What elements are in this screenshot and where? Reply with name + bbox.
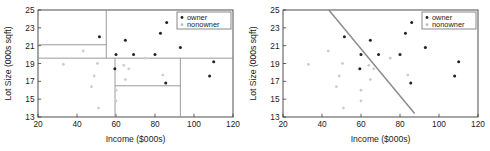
data-point-owner xyxy=(124,39,127,42)
x-axis-title: Income ($000s) xyxy=(351,134,411,144)
x-tick-label: 20 xyxy=(33,119,43,129)
y-tick-label: 19 xyxy=(25,59,35,69)
data-point-nonowner xyxy=(360,100,363,103)
data-point-nonowner xyxy=(335,85,338,88)
x-tick-label: 40 xyxy=(317,119,327,129)
data-point-nonowner xyxy=(341,62,344,65)
data-point-nonowner xyxy=(338,75,341,78)
data-point-owner xyxy=(159,32,162,35)
legend-marker-nonowner xyxy=(181,23,184,26)
chart-panel-right: 2040608010012013151719212325Income ($000… xyxy=(245,0,490,151)
data-point-owner xyxy=(360,53,363,56)
data-point-owner xyxy=(154,53,157,56)
y-tick-label: 17 xyxy=(270,76,280,86)
data-point-nonowner xyxy=(93,75,96,78)
left-plot-group: 2040608010012013151719212325Income ($000… xyxy=(3,5,240,144)
x-tick-label: 60 xyxy=(356,119,366,129)
x-tick-label: 100 xyxy=(187,119,201,129)
data-point-nonowner xyxy=(124,78,127,81)
y-tick-label: 23 xyxy=(270,23,280,33)
data-point-nonowner xyxy=(389,57,392,60)
y-tick-label: 23 xyxy=(25,23,35,33)
data-point-owner xyxy=(453,74,456,77)
data-point-nonowner xyxy=(372,67,375,70)
legend-marker-owner xyxy=(181,16,184,19)
data-point-nonowner xyxy=(327,50,330,53)
data-point-owner xyxy=(115,53,118,56)
x-tick-label: 60 xyxy=(111,119,121,129)
data-point-owner xyxy=(358,67,361,70)
data-point-owner xyxy=(98,35,101,38)
y-tick-label: 25 xyxy=(25,5,35,15)
y-tick-label: 13 xyxy=(25,112,35,122)
data-point-owner xyxy=(377,53,380,56)
legend-label-nonowner: nonowner xyxy=(432,20,465,29)
data-point-owner xyxy=(208,74,211,77)
data-point-owner xyxy=(424,46,427,49)
right-chart-svg: 2040608010012013151719212325Income ($000… xyxy=(245,0,490,151)
y-tick-label: 15 xyxy=(270,94,280,104)
data-point-nonowner xyxy=(127,67,130,70)
x-axis-title: Income ($000s) xyxy=(106,134,166,144)
data-point-owner xyxy=(409,82,412,85)
data-point-owner xyxy=(457,60,460,63)
data-point-nonowner xyxy=(90,85,93,88)
x-tick-label: 80 xyxy=(395,119,405,129)
data-point-nonowner xyxy=(115,100,118,103)
data-point-nonowner xyxy=(307,63,310,66)
y-tick-label: 13 xyxy=(270,112,280,122)
left-chart-svg: 2040608010012013151719212325Income ($000… xyxy=(0,0,245,151)
data-point-nonowner xyxy=(122,64,125,67)
data-point-nonowner xyxy=(367,64,370,67)
data-point-nonowner xyxy=(144,57,147,60)
figure-root: 2040608010012013151719212325Income ($000… xyxy=(0,0,490,151)
data-point-owner xyxy=(410,21,413,24)
y-axis-title: Lot Size (000s sqft) xyxy=(3,26,13,100)
y-tick-label: 17 xyxy=(25,76,35,86)
data-point-nonowner xyxy=(97,107,100,110)
y-tick-label: 15 xyxy=(25,94,35,104)
data-point-owner xyxy=(132,53,135,56)
data-point-nonowner xyxy=(82,50,85,53)
y-axis-title: Lot Size (000s sqft) xyxy=(248,26,258,100)
data-point-nonowner xyxy=(406,74,409,77)
data-point-owner xyxy=(164,82,167,85)
data-point-nonowner xyxy=(62,63,65,66)
data-point-owner xyxy=(113,67,116,70)
data-point-owner xyxy=(212,60,215,63)
x-tick-label: 40 xyxy=(72,119,82,129)
data-point-owner xyxy=(404,32,407,35)
data-point-nonowner xyxy=(96,62,99,65)
data-point-owner xyxy=(165,21,168,24)
x-tick-label: 100 xyxy=(432,119,446,129)
right-plot-group: 2040608010012013151719212325Income ($000… xyxy=(248,5,485,144)
x-tick-label: 120 xyxy=(471,119,485,129)
y-tick-label: 21 xyxy=(270,41,280,51)
data-point-nonowner xyxy=(115,89,118,92)
x-tick-label: 80 xyxy=(150,119,160,129)
legend-marker-owner xyxy=(426,16,429,19)
y-tick-label: 21 xyxy=(25,41,35,51)
legend-marker-nonowner xyxy=(426,23,429,26)
x-tick-label: 20 xyxy=(278,119,288,129)
data-point-nonowner xyxy=(369,78,372,81)
data-point-owner xyxy=(179,46,182,49)
data-point-nonowner xyxy=(342,107,345,110)
data-point-owner xyxy=(369,39,372,42)
data-point-owner xyxy=(399,53,402,56)
chart-panel-left: 2040608010012013151719212325Income ($000… xyxy=(0,0,245,151)
data-point-nonowner xyxy=(360,89,363,92)
x-tick-label: 120 xyxy=(226,119,240,129)
y-tick-label: 25 xyxy=(270,5,280,15)
data-point-nonowner xyxy=(161,74,164,77)
data-point-owner xyxy=(343,35,346,38)
legend-label-nonowner: nonowner xyxy=(187,20,220,29)
y-tick-label: 19 xyxy=(270,59,280,69)
